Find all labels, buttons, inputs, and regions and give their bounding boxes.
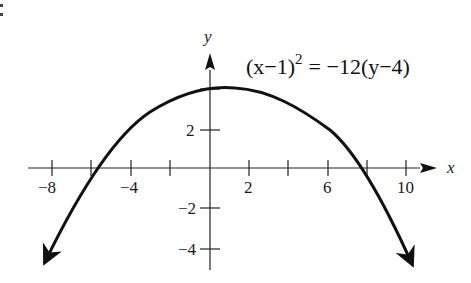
equation-rhs: = −12(y−4) — [309, 54, 410, 79]
equation-label: (x−1)2= −12(y−4) — [246, 51, 410, 79]
x-tick-label: −8 — [38, 178, 56, 197]
x-tick-label: −4 — [120, 178, 139, 197]
y-tick-label: 2 — [186, 121, 195, 140]
x-axis-label: x — [446, 158, 455, 177]
y-tick-label: −2 — [178, 199, 196, 218]
x-axis-arrow-icon — [420, 163, 437, 173]
parabola-chart: −8 −4 2 6 10 x 2 −2 −4 y (x−1)2= −12(y−4… — [0, 0, 471, 283]
y-axis-arrow-icon — [205, 53, 215, 70]
svg-text:(x−1)2= −12(y−4): (x−1)2= −12(y−4) — [246, 51, 410, 79]
corner-mark — [0, 4, 3, 16]
x-tick-label: 6 — [323, 178, 332, 197]
parabola-curve — [45, 88, 412, 264]
equation-base: (x−1) — [246, 54, 295, 79]
y-tick-label: −4 — [178, 240, 197, 259]
x-tick-label: 10 — [397, 178, 414, 197]
x-tick-label: 2 — [244, 178, 253, 197]
equation-exponent: 2 — [295, 51, 303, 67]
y-axis: 2 −2 −4 y — [178, 27, 220, 270]
y-axis-label: y — [202, 27, 212, 46]
